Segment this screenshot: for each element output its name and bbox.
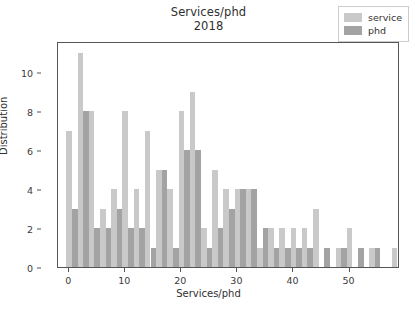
y-tick-mark-6 xyxy=(37,151,41,152)
y-tick-label-4: 4 xyxy=(27,185,33,196)
plot-axes xyxy=(57,42,399,268)
chart-legend: servicephd xyxy=(338,6,409,42)
legend-label: phd xyxy=(368,25,386,36)
x-tick-label-30: 30 xyxy=(230,275,242,286)
plot-area xyxy=(58,43,398,267)
legend-swatch-icon-service xyxy=(344,13,362,22)
x-tick-label-10: 10 xyxy=(118,275,130,286)
x-tick-mark-10 xyxy=(124,268,125,272)
bar-service-50 xyxy=(347,228,353,267)
x-tick-label-50: 50 xyxy=(342,275,354,286)
y-tick-mark-10 xyxy=(37,73,41,74)
x-tick-mark-30 xyxy=(236,268,237,272)
y-tick-label-6: 6 xyxy=(27,146,33,157)
x-tick-mark-20 xyxy=(180,268,181,272)
y-tick-label-2: 2 xyxy=(27,224,33,235)
y-tick-mark-2 xyxy=(37,229,41,230)
x-tick-label-20: 20 xyxy=(174,275,186,286)
bar-phd-46 xyxy=(324,248,330,267)
y-tick-mark-8 xyxy=(37,112,41,113)
legend-item-phd[interactable]: phd xyxy=(344,24,402,37)
x-tick-mark-40 xyxy=(292,268,293,272)
bar-service-58 xyxy=(392,248,398,267)
legend-swatch-icon-phd xyxy=(344,26,362,35)
bar-service-14 xyxy=(145,131,151,267)
bar-phd-55 xyxy=(375,248,381,267)
y-tick-label-8: 8 xyxy=(27,107,33,118)
x-tick-mark-0 xyxy=(68,268,69,272)
chart-figure: Services/phd 2018 0246810 Distribution 0… xyxy=(0,0,417,316)
bar-service-44 xyxy=(313,209,319,267)
y-tick-mark-4 xyxy=(37,190,41,191)
x-tick-label-0: 0 xyxy=(65,275,71,286)
legend-label: service xyxy=(368,12,402,23)
y-tick-label-10: 10 xyxy=(21,68,33,79)
x-axis-label: Services/phd xyxy=(0,288,417,299)
legend-item-service[interactable]: service xyxy=(344,11,402,24)
x-tick-label-40: 40 xyxy=(286,275,298,286)
y-axis-label: Distribution xyxy=(0,97,9,155)
x-tick-mark-50 xyxy=(349,268,350,272)
bar-phd-52 xyxy=(358,248,364,267)
